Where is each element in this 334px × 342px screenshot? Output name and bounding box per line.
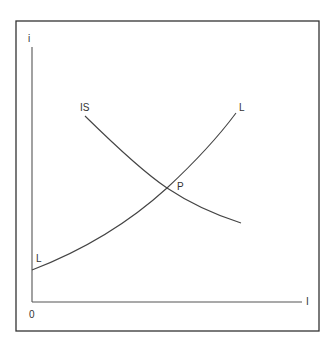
l-curve-label-top: L xyxy=(239,102,245,113)
x-axis-label: I xyxy=(306,296,309,307)
frame-border xyxy=(16,21,319,331)
is-curve xyxy=(85,116,241,223)
y-axis-label: i xyxy=(28,33,30,44)
origin-label: 0 xyxy=(29,309,35,320)
l-curve-label-bottom: L xyxy=(36,253,42,264)
is-lm-diagram: i I 0 IS L L P xyxy=(0,0,334,342)
intersection-label: P xyxy=(177,181,184,192)
is-curve-label: IS xyxy=(80,102,90,113)
l-curve xyxy=(32,113,236,270)
